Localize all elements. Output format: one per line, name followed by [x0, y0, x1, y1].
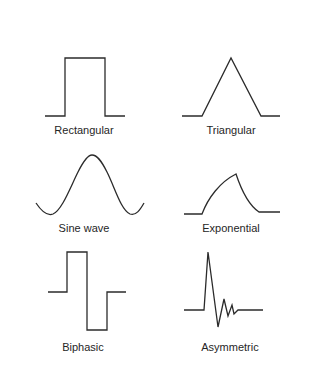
- triangular-label: Triangular: [206, 124, 255, 137]
- exponential-waveform: [184, 174, 280, 214]
- biphasic-waveform: [48, 252, 126, 330]
- biphasic-label: Biphasic: [62, 341, 104, 354]
- asymmetric-label: Asymmetric: [201, 341, 258, 354]
- sine-waveform: [36, 155, 144, 215]
- exponential-label: Exponential: [202, 222, 260, 235]
- rectangular-waveform: [45, 58, 125, 116]
- waveform-diagram: [0, 0, 331, 388]
- triangular-waveform: [182, 58, 280, 116]
- asymmetric-waveform: [184, 252, 263, 327]
- rectangular-label: Rectangular: [54, 124, 113, 137]
- sine-wave-label: Sine wave: [59, 222, 110, 235]
